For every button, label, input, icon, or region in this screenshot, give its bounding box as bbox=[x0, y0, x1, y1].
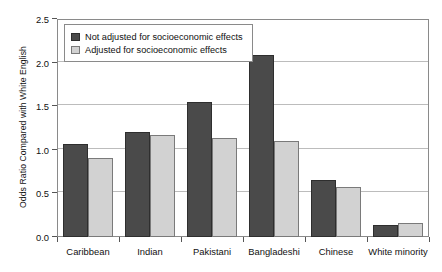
bar bbox=[212, 138, 237, 237]
y-axis-title: Odds Ratio Compared with White English bbox=[18, 27, 28, 227]
legend-label-not-adjusted: Not adjusted for socioeconomic effects bbox=[85, 32, 243, 42]
x-axis-tick-label: Pakistani bbox=[193, 246, 231, 257]
bar bbox=[187, 102, 212, 237]
y-axis-tick-label: 0.0 bbox=[36, 232, 49, 243]
legend-item-not-adjusted: Not adjusted for socioeconomic effects bbox=[71, 30, 243, 43]
x-axis-tick bbox=[367, 237, 368, 242]
bar bbox=[88, 158, 113, 237]
x-axis-tick bbox=[181, 237, 182, 242]
y-axis-tick-label: 1.0 bbox=[36, 144, 49, 155]
bar bbox=[311, 180, 336, 237]
x-axis-tick bbox=[57, 237, 58, 242]
x-axis-tick-label: Bangladeshi bbox=[248, 246, 300, 257]
chart-legend: Not adjusted for socioeconomic effects A… bbox=[64, 24, 253, 62]
x-axis-tick-label: Indian bbox=[137, 246, 163, 257]
x-axis-tick-label: Chinese bbox=[319, 246, 353, 257]
x-axis-tick-label: Caribbean bbox=[66, 246, 109, 257]
bar bbox=[274, 141, 299, 237]
y-axis-tick-label: 2.5 bbox=[36, 14, 49, 25]
legend-item-adjusted: Adjusted for socioeconomic effects bbox=[71, 43, 243, 56]
bar bbox=[398, 223, 423, 237]
x-axis-tick bbox=[243, 237, 244, 242]
x-axis-tick-label: White minority bbox=[368, 246, 427, 257]
y-axis-tick-label: 1.5 bbox=[36, 101, 49, 112]
legend-swatch-icon-adjusted bbox=[71, 46, 80, 54]
legend-label-adjusted: Adjusted for socioeconomic effects bbox=[85, 45, 227, 55]
y-axis-tick-label: 2.0 bbox=[36, 57, 49, 68]
bar bbox=[336, 187, 361, 237]
y-axis-tick-label: 0.5 bbox=[36, 188, 49, 199]
legend-swatch-icon-not-adjusted bbox=[71, 33, 80, 41]
x-axis-tick bbox=[119, 237, 120, 242]
x-axis-tick bbox=[429, 237, 430, 242]
bar bbox=[125, 132, 150, 238]
x-axis-tick bbox=[305, 237, 306, 242]
bar bbox=[63, 144, 88, 237]
bar bbox=[150, 135, 175, 237]
bar-chart: Odds Ratio Compared with White English 0… bbox=[0, 0, 442, 272]
bar bbox=[373, 225, 398, 237]
bar bbox=[249, 55, 274, 237]
